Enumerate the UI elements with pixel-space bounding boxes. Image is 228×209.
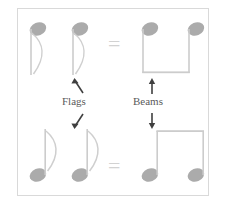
bottom-equals-sign: = (108, 155, 120, 177)
beams-arrow-up-icon (146, 77, 158, 95)
beamed-pair-stems-down (140, 20, 207, 73)
flags-label: Flags (62, 95, 86, 107)
bottom-left-flagged-notes (24, 125, 116, 191)
note-flag-down-2 (70, 20, 91, 75)
beam-top (156, 130, 204, 132)
note-flag-up-2 (70, 129, 98, 184)
note-flag-up-1 (28, 129, 56, 184)
beamed-pair-stems-up (140, 130, 207, 184)
figure-frame: = Flags (17, 8, 209, 196)
top-equals-sign: = (108, 33, 120, 55)
top-right-beamed-notes (136, 17, 208, 83)
note-flag-down-1 (28, 20, 49, 75)
top-left-flagged-notes (24, 17, 116, 83)
flags-arrow-up-icon (70, 77, 86, 95)
beam-bottom (142, 71, 190, 73)
beams-label: Beams (133, 95, 163, 107)
figure-canvas: = Flags (0, 0, 228, 209)
bottom-right-beamed-notes (136, 125, 208, 191)
